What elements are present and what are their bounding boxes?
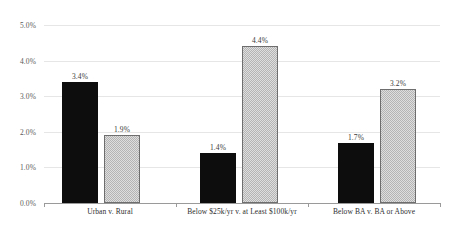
bar-urban-rural-dark: 3.4%: [62, 82, 98, 203]
bar-income-light: 4.4%: [242, 46, 278, 203]
bar-value-label: 3.4%: [72, 72, 88, 81]
bar-income-dark: 1.4%: [200, 153, 236, 203]
category-label-education: Below BA v. BA or Above: [308, 207, 440, 216]
y-axis-label-0: 0.0%: [2, 199, 36, 208]
y-axis-label-3: 3.0%: [2, 92, 36, 101]
y-axis-label-4: 4.0%: [2, 57, 36, 66]
y-axis-label-2: 2.0%: [2, 128, 36, 137]
bar-value-label: 1.7%: [348, 133, 364, 142]
gridline-5: [44, 25, 440, 26]
bar-education-light: 3.2%: [380, 89, 416, 203]
plot-area: 3.4% 1.9% 1.4% 4.4% 1.7% 3.2%: [44, 10, 440, 210]
bar-urban-rural-light: 1.9%: [104, 135, 140, 203]
category-label-income: Below $25k/yr v. at Least $100k/yr: [176, 207, 308, 216]
category-label-urban-rural: Urban v. Rural: [44, 207, 176, 216]
bar-value-label: 1.9%: [114, 125, 130, 134]
y-axis-label-1: 1.0%: [2, 163, 36, 172]
x-axis-baseline: [44, 203, 440, 204]
bar-education-dark: 1.7%: [338, 143, 374, 204]
bar-value-label: 3.2%: [390, 79, 406, 88]
bar-value-label: 4.4%: [252, 36, 268, 45]
y-axis-label-5: 5.0%: [2, 21, 36, 30]
axis-tick-right: [440, 203, 441, 207]
bar-value-label: 1.4%: [210, 143, 226, 152]
bar-chart: 5.0% 4.0% 3.0% 2.0% 1.0% 0.0% 3.4% 1.9% …: [0, 0, 458, 242]
